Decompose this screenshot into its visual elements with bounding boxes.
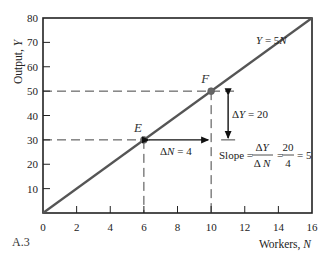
y-tick-label: 20 — [27, 158, 39, 170]
point-label-f: F — [200, 71, 210, 86]
slope-denominator: Δ N — [254, 157, 271, 169]
x-tick-label: 10 — [206, 221, 218, 233]
y-tick-label: 40 — [27, 110, 39, 122]
fraction-numerator: 20 — [283, 141, 295, 153]
x-tick-label: 4 — [108, 221, 114, 233]
y-tick-label: 10 — [27, 183, 39, 195]
y-tick-label: 30 — [27, 134, 39, 146]
y-tick-label: 80 — [27, 12, 39, 24]
point-e — [140, 136, 147, 143]
slope-word: Slope = — [219, 149, 253, 161]
series-line — [43, 18, 312, 213]
data-points: EF — [133, 71, 215, 143]
y-axis-title: Output, Y — [12, 38, 25, 84]
x-tick-label: 0 — [40, 221, 46, 233]
y-tick-label: 50 — [27, 85, 39, 97]
y-tick-label: 60 — [27, 61, 39, 73]
fraction-denominator: 4 — [285, 157, 291, 169]
chart: 02468101214161020304050607080 EF Y = 5N … — [0, 0, 335, 264]
x-tick-label: 6 — [141, 221, 147, 233]
delta-y-label: ΔY = 20 — [232, 108, 268, 120]
line-label: Y = 5N — [256, 34, 287, 46]
slope-numerator: ΔY — [255, 141, 270, 153]
slope-result: = 5 — [297, 149, 312, 161]
point-f — [208, 88, 215, 95]
delta-arrows — [149, 95, 228, 140]
x-tick-label: 16 — [307, 221, 319, 233]
point-label-e: E — [133, 120, 142, 135]
delta-n-label: ΔN = 4 — [160, 145, 192, 157]
x-tick-label: 12 — [239, 221, 250, 233]
dashed-guide-lines — [43, 91, 235, 213]
x-tick-label: 8 — [175, 221, 181, 233]
y-tick-label: 70 — [27, 36, 39, 48]
figure-label: A.3 — [12, 235, 30, 249]
x-axis-title: Workers, N — [259, 238, 312, 251]
x-tick-label: 14 — [273, 221, 285, 233]
slope-formula: Slope = ΔY Δ N = 20 4 = 5 — [219, 141, 312, 169]
x-tick-label: 2 — [74, 221, 80, 233]
line-y-equals-5n — [43, 18, 312, 213]
